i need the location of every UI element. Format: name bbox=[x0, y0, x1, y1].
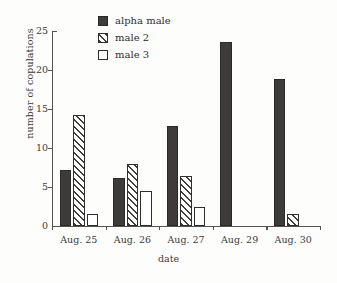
plot-area: 0510152025 Aug. 25Aug. 26Aug. 27Aug. 29A… bbox=[52, 31, 320, 226]
bar-aug-26-male-3 bbox=[140, 191, 152, 226]
y-axis-spine bbox=[52, 31, 53, 226]
x-tick-label: Aug. 27 bbox=[167, 234, 204, 245]
y-tick-label: 10 bbox=[36, 142, 48, 153]
y-tick-mark bbox=[48, 187, 53, 188]
y-tick-mark bbox=[48, 148, 53, 149]
x-tick-mark bbox=[266, 226, 267, 230]
bar-aug-25-alpha-male bbox=[60, 170, 72, 226]
bar-aug-27-male-2 bbox=[180, 176, 192, 226]
bar-chart-figure: number of copulations date alpha male ma… bbox=[0, 0, 337, 283]
y-tick-mark bbox=[48, 70, 53, 71]
bar-aug-27-male-3 bbox=[194, 207, 206, 226]
x-tick-label: Aug. 25 bbox=[60, 234, 97, 245]
x-tick-mark bbox=[213, 226, 214, 230]
bar-aug-25-male-2 bbox=[73, 115, 85, 226]
x-tick-mark bbox=[106, 226, 107, 230]
y-tick-label: 5 bbox=[42, 181, 48, 192]
bar-aug-30-alpha-male bbox=[274, 79, 286, 226]
x-tick-label: Aug. 26 bbox=[114, 234, 151, 245]
bar-aug-26-alpha-male bbox=[113, 178, 125, 226]
legend-swatch-solid-icon bbox=[98, 16, 108, 26]
x-tick-mark bbox=[52, 226, 53, 230]
legend-item-alpha-male: alpha male bbox=[98, 12, 171, 29]
x-tick-label: Aug. 30 bbox=[275, 234, 312, 245]
y-tick-label: 20 bbox=[36, 64, 48, 75]
legend-label-alpha-male: alpha male bbox=[115, 15, 171, 26]
bar-aug-30-male-2 bbox=[287, 214, 299, 226]
y-axis-label: number of copulations bbox=[24, 0, 35, 169]
y-tick-label: 15 bbox=[36, 103, 48, 114]
x-tick-label: Aug. 29 bbox=[221, 234, 258, 245]
x-axis-label: date bbox=[0, 253, 337, 264]
bar-aug-26-male-2 bbox=[127, 164, 139, 226]
y-tick-mark bbox=[48, 109, 53, 110]
bar-aug-25-male-3 bbox=[87, 214, 99, 226]
bar-aug-29-alpha-male bbox=[220, 42, 232, 226]
x-axis-spine bbox=[52, 226, 320, 227]
y-tick-label: 0 bbox=[42, 220, 48, 231]
bar-aug-27-alpha-male bbox=[167, 126, 179, 226]
y-tick-label: 25 bbox=[36, 25, 48, 36]
y-tick-mark bbox=[52, 31, 57, 32]
x-tick-mark bbox=[159, 226, 160, 230]
x-tick-mark bbox=[320, 226, 321, 230]
